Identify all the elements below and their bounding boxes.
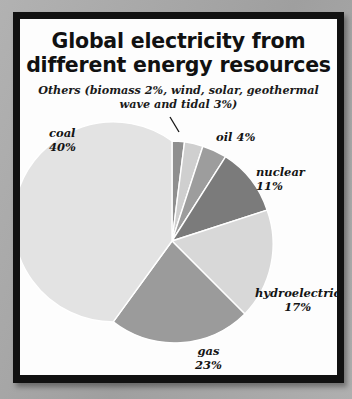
chart-card: Global electricity from different energy… [20, 19, 337, 375]
pie-label-oil: oil 4% [216, 131, 255, 145]
others-leader-line [170, 117, 179, 132]
poster-frame: Global electricity from different energy… [13, 12, 344, 383]
pie-slices [20, 122, 273, 343]
pie-label-nuclear: nuclear 11% [256, 166, 305, 193]
pie-chart [20, 19, 337, 375]
pie-label-hydroelectric: hydroelectric 17% [255, 287, 337, 314]
pie-label-coal: coal 40% [49, 127, 76, 154]
pie-label-gas: gas 23% [195, 345, 222, 372]
